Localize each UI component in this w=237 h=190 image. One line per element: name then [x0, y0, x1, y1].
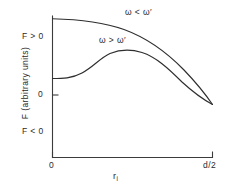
- curve-annotation-omega-less: ω < ω′: [125, 8, 152, 17]
- chart-figure: F (arbitrary units) F > 0 0 F < 0 0 d/2 …: [0, 0, 237, 190]
- curve-omega-greater-than: [53, 50, 213, 104]
- y-tick-label-zero: 0: [38, 90, 43, 99]
- x-tick-label-d2: d/2: [203, 161, 216, 170]
- x-tick-label-0: 0: [49, 161, 54, 170]
- x-axis-label: ri: [113, 172, 118, 183]
- y-tick-label-f-negative: F < 0: [22, 127, 44, 136]
- x-axis-label-subscript: i: [116, 175, 118, 182]
- y-tick-label-f-positive: F > 0: [22, 32, 44, 41]
- curve-annotation-omega-greater: ω > ω′: [99, 36, 126, 45]
- y-axis-label: F (arbitrary units): [20, 28, 30, 138]
- curve-omega-less-than: [53, 19, 213, 105]
- plot-canvas: [0, 0, 237, 190]
